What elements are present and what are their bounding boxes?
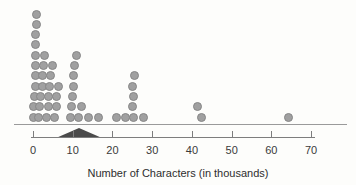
x-axis-line xyxy=(31,137,315,138)
data-dot xyxy=(128,82,137,91)
data-dot xyxy=(128,102,137,111)
data-dot xyxy=(50,113,59,122)
data-dot xyxy=(48,61,57,70)
data-dot xyxy=(39,61,48,70)
axis-tick-label: 30 xyxy=(140,144,164,156)
axis-tick xyxy=(192,131,193,137)
data-dot xyxy=(77,102,86,111)
data-dot xyxy=(94,113,103,122)
data-dot xyxy=(129,113,138,122)
data-dot xyxy=(31,40,40,49)
axis-tick-label: 60 xyxy=(259,144,283,156)
x-axis-title: Number of Characters (in thousands) xyxy=(0,167,356,179)
axis-tick xyxy=(271,131,272,137)
data-dot xyxy=(69,71,78,80)
data-dot xyxy=(31,51,40,60)
axis-tick xyxy=(112,131,113,137)
data-dot xyxy=(32,20,41,29)
data-dot xyxy=(139,113,148,122)
data-dot xyxy=(129,92,138,101)
axis-tick-label: 10 xyxy=(61,144,85,156)
dot-plot-figure: 010203040506070 Number of Characters (in… xyxy=(0,0,356,185)
data-dot xyxy=(31,30,40,39)
data-dot xyxy=(68,92,77,101)
data-dot xyxy=(52,92,61,101)
axis-tick-label: 20 xyxy=(100,144,124,156)
axis-tick-label: 40 xyxy=(180,144,204,156)
axis-tick-label: 0 xyxy=(21,144,45,156)
axis-tick-label: 70 xyxy=(299,144,323,156)
data-dot xyxy=(74,113,83,122)
data-dot xyxy=(52,102,61,111)
data-dot xyxy=(112,113,121,122)
data-dot xyxy=(45,82,54,91)
axis-tick-label: 50 xyxy=(220,144,244,156)
axis-tick xyxy=(73,131,74,137)
data-dot xyxy=(67,102,76,111)
data-dot xyxy=(197,113,206,122)
data-dot xyxy=(46,71,55,80)
data-dot xyxy=(32,10,41,19)
data-dot xyxy=(54,82,63,91)
data-dot xyxy=(193,102,202,111)
axis-tick xyxy=(152,131,153,137)
data-dot xyxy=(130,71,139,80)
data-dot xyxy=(72,51,81,60)
data-dot xyxy=(70,61,79,70)
axis-tick xyxy=(33,131,34,137)
data-dot xyxy=(84,113,93,122)
data-dot xyxy=(40,51,49,60)
axis-tick xyxy=(232,131,233,137)
data-dot xyxy=(69,82,78,91)
data-dot xyxy=(35,102,44,111)
data-dot xyxy=(284,113,293,122)
baseline-rule xyxy=(14,124,347,125)
axis-tick xyxy=(311,131,312,137)
